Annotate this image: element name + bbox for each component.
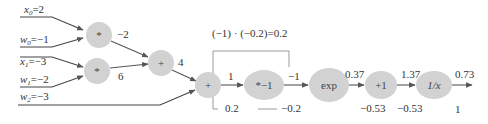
grad-add1: 0.2 [225,102,239,114]
computational-graph: x0=2 w0=−1 x1=−3 w1=−2 w2=−3 (−1) · (−0.… [0,0,488,124]
svg-text:+1: +1 [375,79,387,91]
value-mul1-out: 6 [118,70,124,82]
node-add1: + [195,72,221,98]
input-labels: x0=2 w0=−1 x1=−3 w1=−2 w2=−3 [19,3,49,104]
input-w0: w0=−1 [20,33,49,47]
value-mul0-out: −2 [117,28,129,40]
node-plus1: +1 [365,71,397,99]
svg-text:*: * [96,29,102,41]
grad-plus1: −0.53 [397,102,423,114]
svg-text:+: + [205,79,211,91]
svg-text:+: + [158,57,164,69]
node-exp: exp [309,68,349,102]
input-w1: w1=−2 [20,73,49,87]
gradient-bracket: (−1) · (−0.2)=0.2 [212,27,289,109]
grad-neg: −0.2 [281,102,301,114]
input-x0: x0=2 [23,3,44,17]
value-recip-out: 0.73 [455,68,475,80]
node-recip: 1/x [416,71,452,99]
svg-text:1/x: 1/x [427,79,441,91]
node-neg: *−1 [244,70,284,100]
grad-exp: −0.53 [360,102,386,114]
value-add1-out: 1 [228,70,234,82]
input-x1: x1=−3 [19,55,47,69]
svg-text:*: * [94,65,100,77]
node-mul0: * [86,22,112,48]
value-neg-out: −1 [288,70,300,82]
value-add0-out: 4 [178,56,184,68]
input-w2: w2=−3 [20,90,49,104]
value-plus1-out: 1.37 [401,68,421,80]
svg-text:exp: exp [321,79,337,91]
node-mul1: * [84,58,110,84]
svg-text:*−1: *−1 [255,79,272,91]
value-exp-out: 0.37 [345,68,365,80]
chain-rule-annotation: (−1) · (−0.2)=0.2 [212,27,287,40]
grad-recip: 1 [455,103,461,115]
node-add0: + [148,50,174,76]
